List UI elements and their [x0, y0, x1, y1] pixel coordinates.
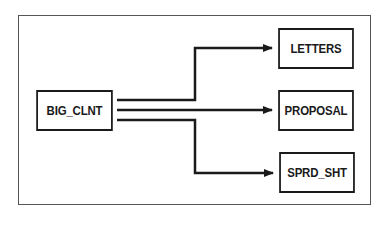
edge-big-clnt-to-sprd-sht	[117, 120, 273, 173]
node-label: SPRD_SHT	[287, 165, 347, 180]
node-sprd-sht: SPRD_SHT	[279, 152, 355, 193]
node-label: BIG_CLNT	[47, 103, 103, 118]
node-label: PROPOSAL	[285, 103, 348, 118]
node-letters: LETTERS	[278, 28, 354, 69]
node-big-clnt: BIG_CLNT	[36, 90, 113, 131]
node-proposal: PROPOSAL	[278, 90, 354, 131]
node-label: LETTERS	[291, 41, 342, 56]
edge-big-clnt-to-letters	[117, 48, 272, 100]
